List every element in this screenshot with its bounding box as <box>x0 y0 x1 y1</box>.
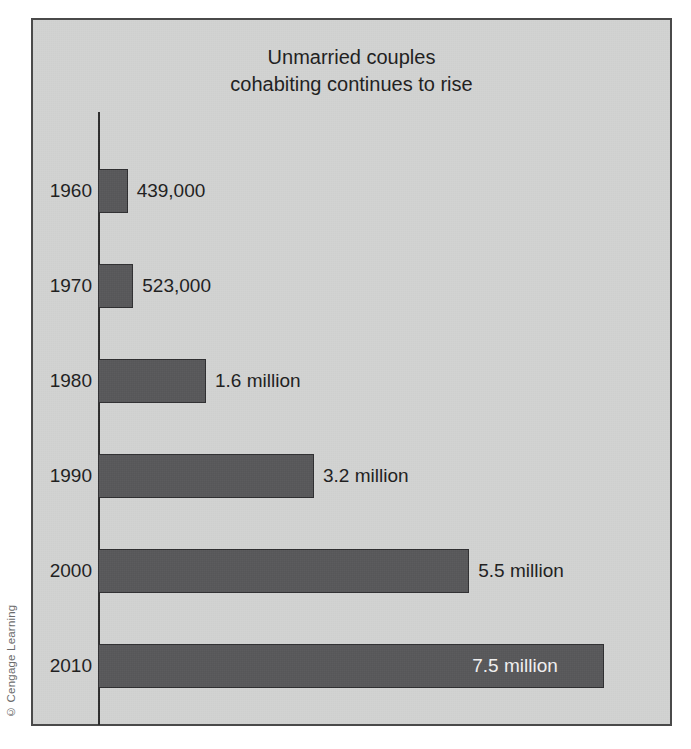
bar-category-label-1960: 1960 <box>33 169 92 213</box>
bar-row: 20005.5 million <box>33 549 670 593</box>
bar-value-label-1960: 439,000 <box>137 169 206 213</box>
copyright-credit: © Cengage Learning <box>0 596 22 726</box>
bar-value-label-2000: 5.5 million <box>478 549 564 593</box>
bar-value-label-2010: 7.5 million <box>472 644 558 688</box>
bar-value-label-1970: 523,000 <box>142 264 211 308</box>
bar-value-label-1980: 1.6 million <box>215 359 301 403</box>
bar-row: 20107.5 million <box>33 644 670 688</box>
bar-category-label-1980: 1980 <box>33 359 92 403</box>
bar-category-label-1970: 1970 <box>33 264 92 308</box>
bar-1970 <box>98 264 133 308</box>
chart-frame: Unmarried couples cohabiting continues t… <box>31 18 672 726</box>
bar-1990 <box>98 454 314 498</box>
bar-row: 19903.2 million <box>33 454 670 498</box>
bar-row: 1960439,000 <box>33 169 670 213</box>
bar-1960 <box>98 169 128 213</box>
bar-category-label-1990: 1990 <box>33 454 92 498</box>
bar-row: 1970523,000 <box>33 264 670 308</box>
bar-1980 <box>98 359 206 403</box>
bar-category-label-2000: 2000 <box>33 549 92 593</box>
plot-area: 1960439,0001970523,00019801.6 million199… <box>33 20 670 724</box>
bar-value-label-1990: 3.2 million <box>323 454 409 498</box>
bar-2000 <box>98 549 469 593</box>
bar-row: 19801.6 million <box>33 359 670 403</box>
bar-category-label-2010: 2010 <box>33 644 92 688</box>
